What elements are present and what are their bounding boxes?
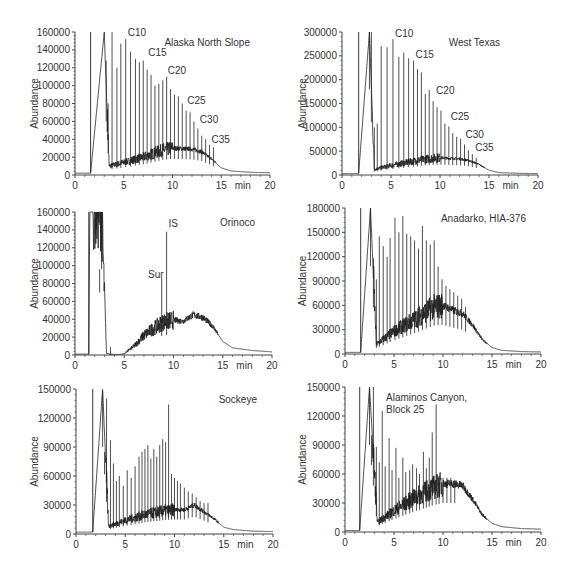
y-tick-label: 20000 bbox=[42, 152, 70, 163]
x-unit-label: min bbox=[237, 539, 253, 550]
chart-panel-4: 0300006000090000120000150000180000051015… bbox=[297, 203, 547, 371]
x-tick-label: 20 bbox=[535, 359, 547, 370]
x-unit-label: min bbox=[505, 359, 521, 370]
peak-annotation: C30 bbox=[200, 114, 219, 125]
y-tick-label: 30000 bbox=[43, 500, 71, 511]
y-axis-title: Abundance bbox=[29, 258, 40, 309]
y-tick-label: 100000 bbox=[304, 122, 338, 133]
x-tick-label: 15 bbox=[216, 180, 228, 191]
x-tick-label: 15 bbox=[486, 359, 498, 370]
x-tick-label: 15 bbox=[217, 360, 229, 371]
chromatogram-trace bbox=[345, 389, 541, 531]
x-unit-label: min bbox=[502, 180, 518, 191]
x-tick-label: 15 bbox=[486, 537, 498, 548]
y-tick-label: 120000 bbox=[37, 242, 71, 253]
x-tick-label: 10 bbox=[434, 180, 446, 191]
y-tick-label: 60000 bbox=[42, 116, 70, 127]
x-tick-label: 0 bbox=[342, 537, 348, 548]
y-tick-label: 50000 bbox=[309, 146, 337, 157]
y-tick-label: 100000 bbox=[37, 260, 71, 271]
x-tick-label: 0 bbox=[339, 180, 345, 191]
x-unit-label: min bbox=[505, 537, 521, 548]
chromatogram-figure: 0200004000060000800001000001200001400001… bbox=[0, 0, 568, 570]
x-tick-label: 15 bbox=[218, 539, 230, 550]
y-tick-label: 200000 bbox=[304, 74, 338, 85]
x-tick-label: 10 bbox=[437, 359, 449, 370]
x-tick-label: 10 bbox=[437, 537, 449, 548]
x-tick-label: 5 bbox=[391, 359, 397, 370]
panel-title: Anadarko, HIA-376 bbox=[441, 213, 526, 224]
y-tick-label: 120000 bbox=[307, 411, 341, 422]
panel-title: West Texas bbox=[449, 37, 500, 48]
x-tick-label: 20 bbox=[267, 539, 279, 550]
y-tick-label: 120000 bbox=[37, 62, 71, 73]
y-tick-label: 60000 bbox=[312, 300, 340, 311]
peak-annotation: C10 bbox=[395, 28, 414, 39]
x-tick-label: 5 bbox=[391, 537, 397, 548]
y-tick-label: 0 bbox=[64, 170, 70, 181]
y-tick-label: 80000 bbox=[42, 98, 70, 109]
chromatogram-trace bbox=[75, 32, 270, 173]
y-axis-title: Abundance bbox=[297, 255, 308, 306]
y-tick-label: 140000 bbox=[37, 44, 71, 55]
chart-panel-3: 0200004000060000800001000001200001400001… bbox=[29, 207, 278, 372]
y-tick-label: 30000 bbox=[312, 324, 340, 335]
y-tick-label: 140000 bbox=[37, 224, 71, 235]
peak-annotation: C25 bbox=[187, 95, 206, 106]
panel-title-line2: Block 25 bbox=[386, 404, 425, 415]
peak-annotation: C20 bbox=[436, 85, 455, 96]
y-tick-label: 100000 bbox=[37, 80, 71, 91]
y-tick-label: 300000 bbox=[304, 27, 338, 38]
x-tick-label: 5 bbox=[122, 539, 128, 550]
x-tick-label: 20 bbox=[264, 180, 276, 191]
y-tick-label: 160000 bbox=[37, 27, 71, 38]
chromatogram-trace bbox=[345, 208, 541, 352]
y-axis-title: Abundance bbox=[297, 78, 308, 129]
y-tick-label: 80000 bbox=[42, 278, 70, 289]
chart-panel-5: 030000600009000012000015000005101520minA… bbox=[29, 384, 279, 551]
panel-title: Alaminos Canyon, bbox=[386, 392, 467, 403]
x-tick-label: 5 bbox=[121, 180, 127, 191]
x-tick-label: 0 bbox=[72, 360, 78, 371]
y-tick-label: 40000 bbox=[42, 134, 70, 145]
y-tick-label: 60000 bbox=[43, 471, 71, 482]
panel-title: Sockeye bbox=[219, 394, 258, 405]
panel-title: Orinoco bbox=[220, 217, 255, 228]
x-tick-label: 5 bbox=[388, 180, 394, 191]
y-tick-label: 20000 bbox=[42, 332, 70, 343]
y-tick-label: 90000 bbox=[312, 276, 340, 287]
y-tick-label: 90000 bbox=[43, 442, 71, 453]
x-tick-label: 10 bbox=[169, 539, 181, 550]
x-tick-label: 0 bbox=[342, 359, 348, 370]
y-tick-label: 90000 bbox=[312, 440, 340, 451]
chart-panel-6: 030000600009000012000015000005101520minA… bbox=[297, 382, 547, 549]
y-tick-label: 0 bbox=[64, 350, 70, 361]
y-tick-label: 180000 bbox=[307, 203, 341, 214]
y-tick-label: 0 bbox=[65, 529, 71, 540]
x-unit-label: min bbox=[235, 180, 251, 191]
chromatogram-trace bbox=[75, 212, 272, 355]
peak-annotation: C15 bbox=[148, 47, 167, 58]
y-axis-title: Abundance bbox=[29, 78, 40, 129]
chart-panel-1: 0200004000060000800001000001200001400001… bbox=[29, 27, 276, 192]
y-tick-label: 30000 bbox=[312, 498, 340, 509]
x-tick-label: 5 bbox=[121, 360, 127, 371]
peak-annotation: C10 bbox=[128, 27, 147, 38]
x-tick-label: 0 bbox=[72, 180, 78, 191]
peak-annotation: C35 bbox=[475, 142, 494, 153]
y-tick-label: 120000 bbox=[307, 251, 341, 262]
y-tick-label: 0 bbox=[331, 170, 337, 181]
y-tick-label: 150000 bbox=[38, 384, 72, 395]
panel-title: Alaska North Slope bbox=[164, 37, 250, 48]
peak-annotation: C20 bbox=[168, 65, 187, 76]
y-tick-label: 150000 bbox=[307, 227, 341, 238]
peak-annotation: C30 bbox=[466, 129, 485, 140]
chart-panel-2: 0500001000001500002000002500003000000510… bbox=[297, 27, 544, 192]
x-tick-label: 20 bbox=[266, 360, 278, 371]
y-tick-label: 150000 bbox=[304, 98, 338, 109]
peak-annotation: C15 bbox=[416, 49, 435, 60]
peak-annotation: C25 bbox=[451, 111, 470, 122]
peak-annotation: C35 bbox=[212, 134, 231, 145]
peak-annotation: IS bbox=[169, 218, 179, 229]
x-tick-label: 20 bbox=[532, 180, 544, 191]
